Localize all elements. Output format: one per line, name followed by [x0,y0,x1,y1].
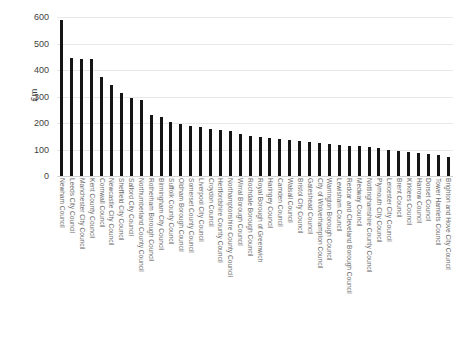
bar [377,148,380,176]
x-axis-tick-label: Newham Council [59,178,66,228]
x-axis-label-slot: Kirklees Council [404,178,414,338]
x-axis-tick-label: Gateshead Council [306,178,313,234]
x-axis-tick-label: Croydon Council [207,178,214,227]
x-axis-label-slot: Cornwall Council [97,178,107,338]
x-axis-label-slot: Gateshead Council [305,178,315,338]
x-axis-tick-label: Birmingham City Council [158,178,165,250]
bar-slot [424,17,434,176]
bar [249,136,252,176]
bar [140,100,143,176]
y-axis-tick-label: 500 [34,39,49,49]
x-axis-label-slot: Rotherham Borough Council [146,178,156,338]
bar-slot [414,17,424,176]
x-axis-tick-label: Redcar and Cleveland Borough Council [346,178,353,294]
x-axis-label-slot: Dorset Council [424,178,434,338]
x-axis-tick-label: Nottinghamshire County Council [366,178,373,273]
x-axis-label-slot: Brighton and Hove City Council [443,178,453,338]
bar-slot [225,17,235,176]
bar [298,141,301,176]
x-axis-label-slot: Walsall Council [285,178,295,338]
bar [219,130,222,176]
x-axis-label-slot: Harrow Council [414,178,424,338]
bar-slot [334,17,344,176]
bar-slot [364,17,374,176]
bar-slot [176,17,186,176]
x-axis-label-slot: Northamptonshire County Council [225,178,235,338]
x-axis-tick-label: Bristol City Council [296,178,303,233]
x-axis-label-slot: Tower Hamlets Council [433,178,443,338]
bar-slot [324,17,334,176]
bar-slot [384,17,394,176]
bar-slot [433,17,443,176]
bar [288,140,291,176]
x-axis-label-slot: Royal Borough of Greenwich [255,178,265,338]
bar [437,155,440,176]
bar-slot [245,17,255,176]
x-axis-label-slot: Rochdale Borough Council [245,178,255,338]
bar-slot [186,17,196,176]
bar [160,117,163,176]
x-axis-label-slot: Wirral Borough Council [235,178,245,338]
x-axis-tick-label: Lewisham Council [336,178,343,232]
x-axis-label-slot: Birmingham City Council [156,178,166,338]
x-axis-tick-label: Rotherham Borough Council [148,178,155,261]
bar [328,144,331,176]
bar [427,154,430,176]
x-axis-tick-label: Hertfordshire County Council [217,178,224,263]
bar [259,137,262,176]
x-axis-tick-label: Rochdale Borough Council [247,178,254,256]
bar [80,59,83,176]
bar [318,143,321,176]
bar [229,131,232,176]
x-axis-tick-label: Warrington Borough Council [326,178,333,261]
bar-slot [216,17,226,176]
x-axis-label-slot: Nottinghamshire County Council [364,178,374,338]
bar [100,77,103,176]
bar-series [57,17,453,176]
x-axis-label-slot: Northumberland County Council [136,178,146,338]
x-axis-tick-label: City of Wolverhampton Council [316,178,323,268]
x-axis-tick-label: Brighton and Hove City Council [445,178,452,270]
bar-slot [146,17,156,176]
bar [358,146,361,176]
x-axis-label-slot: Camden Council [275,178,285,338]
x-axis-tick-label: Kent County Council [88,178,95,238]
x-axis-label-slot: Oldham Borough Council [176,178,186,338]
bar [189,126,192,176]
x-axis-tick-label: Wirral Borough Council [237,178,244,246]
bar-slot [394,17,404,176]
bar [407,152,410,176]
bar [239,134,242,176]
x-axis-tick-label: Cornwall Council [98,178,105,227]
x-axis-tick-label: Royal Borough of Greenwich [257,178,264,262]
x-axis-tick-label: Suffolk County Council [168,178,175,245]
bar [150,115,153,176]
bar-slot [196,17,206,176]
bar [169,122,172,176]
bar-slot [116,17,126,176]
x-axis-label-slot: Newcastle City Council [107,178,117,338]
bar [278,139,281,176]
x-axis-label-slot: City of Wolverhampton Council [315,178,325,338]
x-axis-label-slot: Bristol City Council [295,178,305,338]
bar [387,150,390,177]
y-axis-tick-label: 0 [44,171,49,181]
x-axis-tick-label: Dorset Council [425,178,432,221]
bar-slot [255,17,265,176]
bar-slot [97,17,107,176]
x-axis-tick-label: Northumberland County Council [138,178,145,272]
x-axis-label-slot: Manchester City Council [77,178,87,338]
bar [417,153,420,176]
y-axis-tick-label: 100 [34,145,49,155]
x-axis-tick-label: Tower Hamlets Council [435,178,442,245]
bar-slot [344,17,354,176]
x-axis-label-slot: Brent Council [394,178,404,338]
bar-slot [107,17,117,176]
x-axis-label-slot: Newham Council [57,178,67,338]
bar-slot [136,17,146,176]
x-axis-label-slot: Salford City Council [126,178,136,338]
bar-slot [404,17,414,176]
y-axis-tick-label: 600 [34,12,49,22]
bar-slot [265,17,275,176]
y-axis-tick-label: 300 [34,92,49,102]
